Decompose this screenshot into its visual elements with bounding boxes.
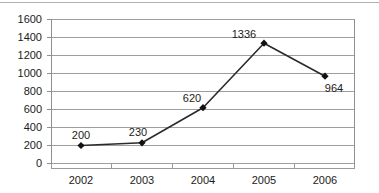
y-tick-label-0: 0 [8, 158, 42, 169]
data-label-2003: 230 [118, 127, 158, 138]
x-tick-label-2005: 2005 [240, 175, 288, 186]
y-tick-label-1200: 1200 [8, 50, 42, 61]
y-axis-ticks [47, 20, 51, 164]
data-label-2005: 1336 [224, 29, 264, 40]
y-tick-label-400: 400 [8, 122, 42, 133]
data-point-2002 [77, 142, 84, 149]
y-tick-label-1400: 1400 [8, 32, 42, 43]
line-chart: 1600 1400 1200 1000 800 600 400 200 0 20… [0, 0, 379, 193]
x-tick-label-2006: 2006 [301, 175, 349, 186]
data-label-2006: 964 [314, 83, 354, 94]
x-tick-label-2003: 2003 [118, 175, 166, 186]
y-tick-label-600: 600 [8, 104, 42, 115]
y-tick-label-200: 200 [8, 140, 42, 151]
x-tick-label-2002: 2002 [57, 175, 105, 186]
x-tick-label-2004: 2004 [179, 175, 227, 186]
y-tick-label-1000: 1000 [8, 68, 42, 79]
data-label-2004: 620 [172, 93, 212, 104]
y-tick-label-1600: 1600 [8, 14, 42, 25]
x-axis [51, 164, 355, 169]
y-tick-label-800: 800 [8, 86, 42, 97]
data-label-2002: 200 [61, 130, 101, 141]
gridlines [51, 20, 355, 164]
